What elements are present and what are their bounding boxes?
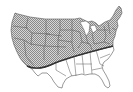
us-map xyxy=(0,0,133,92)
us-map-svg xyxy=(0,0,133,92)
